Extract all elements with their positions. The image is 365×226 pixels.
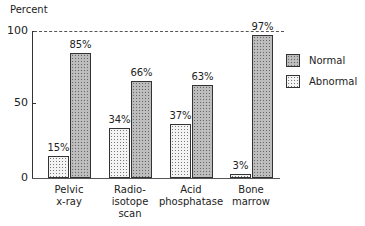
value-label: 3% [226, 160, 256, 171]
bar-abnormal [170, 124, 191, 178]
x-category-label: Pelvicx-ray [34, 184, 104, 208]
bar-normal [70, 53, 91, 178]
value-label: 85% [66, 39, 96, 50]
value-label: 15% [44, 142, 74, 153]
value-label: 34% [105, 114, 135, 125]
legend-abnormal-label: Abnormal [309, 76, 357, 87]
legend-abnormal-swatch [286, 75, 300, 88]
value-label: 37% [166, 110, 196, 121]
y-axis-title: Percent [10, 4, 48, 15]
bar-normal [192, 85, 213, 178]
y-axis [32, 31, 33, 179]
x-category-label: Radio-isotopescan [95, 184, 165, 220]
bar-abnormal [48, 156, 69, 178]
bar-abnormal [230, 174, 251, 178]
bar-normal [131, 81, 152, 178]
value-label: 97% [248, 21, 278, 32]
legend-normal-swatch [286, 54, 300, 67]
y-tick-100: 100 [4, 24, 28, 37]
value-label: 66% [127, 67, 157, 78]
y-tickmark-50 [32, 103, 36, 104]
y-tick-0: 0 [4, 171, 28, 184]
value-label: 63% [188, 71, 218, 82]
bar-abnormal [109, 128, 130, 178]
x-axis [32, 178, 280, 179]
bar-normal [252, 35, 273, 178]
legend-normal-label: Normal [309, 55, 345, 66]
reference-line-100 [34, 31, 284, 32]
y-tick-50: 50 [4, 96, 28, 109]
x-category-label: Bonemarrow [216, 184, 286, 208]
